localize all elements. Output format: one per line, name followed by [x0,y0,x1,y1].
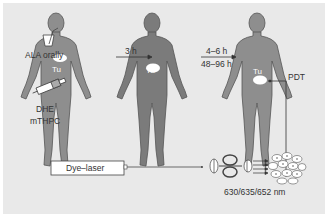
patient-figure-3 [222,13,292,166]
tumor-label-3: Tu [253,68,262,76]
lens-icon-2 [244,160,252,172]
light-rays [253,160,268,175]
ala-orally-label: ALA orally [25,51,63,60]
lens-icon [210,159,218,173]
wavelengths-label: 630/635/652 nm [224,188,285,197]
patient-figure-2 [117,13,187,166]
dye-laser-label: Dye–laser [66,164,104,173]
interval-4-6h-label: 4–6 h [206,47,227,56]
patient-figure-1 [21,13,91,166]
interval-3h-label: 3 h [125,47,137,56]
dhe-label: DHE [36,105,54,114]
pdt-label: PDT [288,73,305,82]
tumor-3 [253,76,267,85]
tumor-label-2: Tu [146,67,155,75]
tumor-cells-icon [269,153,307,185]
fiber-coil-icon [219,155,242,177]
mthpc-label: mTHPC [30,117,60,126]
tumor-label-1: Tu [52,66,61,74]
interval-48-96h-label: 48–96 h [201,60,232,69]
